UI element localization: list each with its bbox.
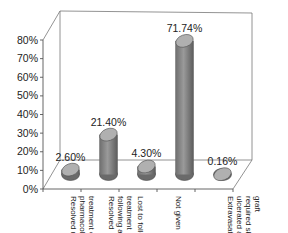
bar: 71.74% [167, 22, 203, 181]
category-label: Lost to follow-up [136, 196, 145, 233]
svg-text:Extravasation: Extravasation [226, 196, 235, 233]
y-tick-label: 0% [23, 183, 38, 195]
svg-text:Resolved using: Resolved using [69, 196, 78, 233]
svg-text:graft: graft [253, 196, 262, 213]
data-label: 4.30% [132, 147, 162, 159]
y-axis: 0%10%20%30%40%50%60%70%80% [17, 34, 43, 195]
y-tick-label: 70% [17, 52, 38, 64]
svg-text:Resolved: Resolved [107, 196, 116, 229]
svg-text:ulcerated and: ulcerated and [235, 196, 244, 233]
bar: 0.16% [208, 155, 238, 183]
bar-chart: 0%10%20%30%40%50%60%70%80% 2.60%21.40%4.… [0, 0, 288, 233]
bar: 21.40% [91, 116, 127, 181]
y-tick-label: 60% [17, 71, 38, 83]
svg-text:treatment only: treatment only [87, 196, 96, 233]
category-label: Resolvedfollowing acutetreatment [107, 196, 134, 233]
svg-text:treatment: treatment [125, 196, 134, 231]
y-tick-label: 50% [17, 89, 38, 101]
data-label: 2.60% [56, 151, 86, 163]
y-tick-label: 80% [17, 34, 38, 46]
category-label: Extravasationulcerated andrequired sking… [226, 196, 262, 233]
data-label: 71.74% [167, 22, 203, 34]
svg-text:Lost to follow-up: Lost to follow-up [136, 196, 145, 233]
svg-text:pharmacological: pharmacological [78, 196, 87, 233]
bar: 4.30% [132, 147, 162, 180]
y-tick-label: 10% [17, 164, 38, 176]
y-tick-label: 30% [17, 127, 38, 139]
data-label: 21.40% [91, 116, 127, 128]
svg-text:Not given: Not given [174, 196, 183, 230]
svg-text:following acute: following acute [116, 196, 125, 233]
svg-text:required skin: required skin [244, 196, 253, 233]
bar-series: 2.60%21.40%4.30%71.74%0.16% [56, 22, 238, 183]
x-axis: Resolved usingpharmacologicaltreatment o… [43, 189, 262, 233]
y-tick-label: 20% [17, 145, 38, 157]
data-label: 0.16% [208, 155, 238, 167]
y-tick-label: 40% [17, 108, 38, 120]
category-label: Resolved usingpharmacologicaltreatment o… [69, 196, 96, 233]
category-label: Not given [174, 196, 183, 230]
bar: 2.60% [56, 151, 86, 181]
